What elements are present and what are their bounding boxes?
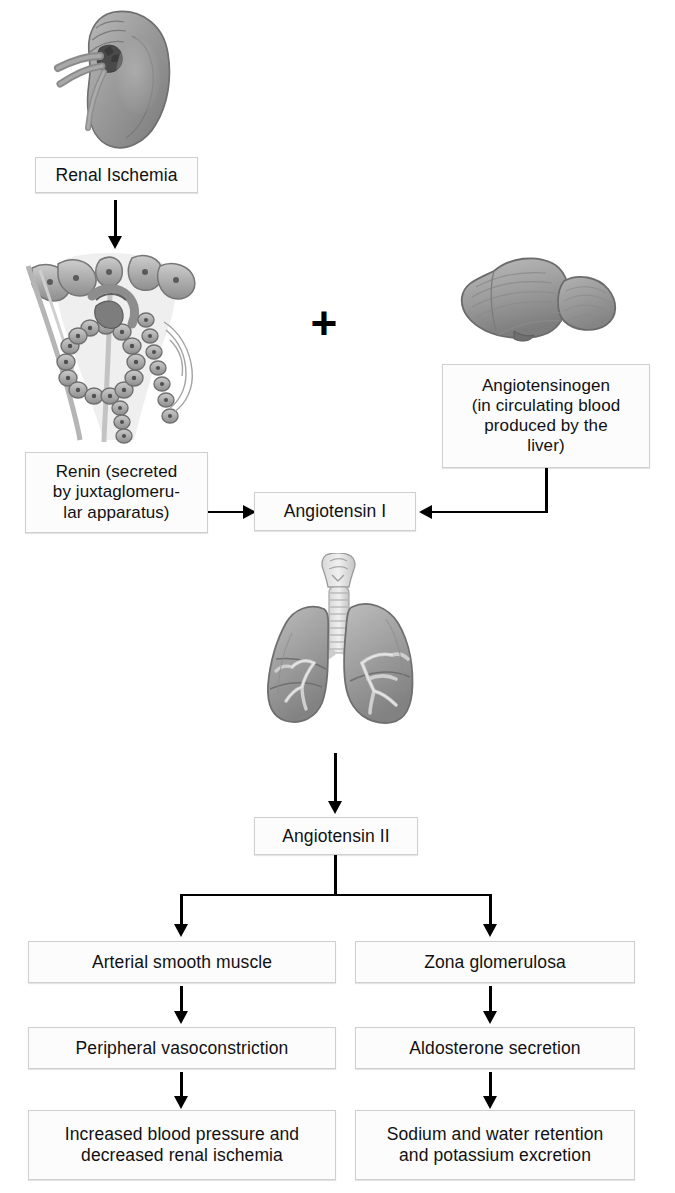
connector-branch-right-drop <box>489 894 492 926</box>
connector-angiotensinogen-vertical <box>545 468 548 513</box>
connector-renin-to-angiotensin-i <box>208 511 245 514</box>
arrowhead-aldosterone-to-sodium-water <box>483 1096 497 1109</box>
connector-angiotensin-ii-stem <box>334 855 337 896</box>
node-renin[interactable]: Renin (secreted by juxtaglomeru- lar app… <box>25 452 208 533</box>
connector-aldosterone-to-sodium-water <box>489 1072 492 1098</box>
connector-angiotensin-ii-branch-bar <box>180 894 491 897</box>
node-arterial-smooth-muscle[interactable]: Arterial smooth muscle <box>28 941 336 983</box>
node-peripheral-vasoconstriction[interactable]: Peripheral vasoconstriction <box>28 1027 336 1069</box>
liver-icon <box>452 255 634 347</box>
node-increased-blood-pressure[interactable]: Increased blood pressure and decreased r… <box>28 1110 336 1180</box>
connector-vasoconstriction-to-increased-bp <box>180 1072 183 1098</box>
kidney-icon <box>52 6 192 156</box>
lungs-icon <box>252 553 424 753</box>
node-angiotensinogen[interactable]: Angiotensinogen (in circulating blood pr… <box>442 364 650 468</box>
diagram-canvas: Renal Ischemia <box>0 0 675 1193</box>
connector-zona-to-aldosterone <box>489 986 492 1013</box>
node-angiotensin-i[interactable]: Angiotensin I <box>254 492 416 531</box>
arrowhead-vasoconstriction-to-increased-bp <box>174 1096 188 1109</box>
arrowhead-angiotensinogen-to-angiotensin-i <box>419 505 432 519</box>
connector-arterial-to-vasoconstriction <box>180 986 183 1013</box>
arrowhead-lungs-to-angiotensin-ii <box>328 801 342 814</box>
node-angiotensin-ii[interactable]: Angiotensin II <box>254 817 418 855</box>
node-aldosterone-secretion[interactable]: Aldosterone secretion <box>355 1027 635 1069</box>
arrowhead-renal-ischemia-to-jga <box>108 236 122 249</box>
node-sodium-water-retention[interactable]: Sodium and water retention and potassium… <box>355 1110 635 1180</box>
arrowhead-arterial-to-vasoconstriction <box>174 1011 188 1024</box>
connector-lungs-to-angiotensin-ii <box>334 753 337 803</box>
node-renal-ischemia[interactable]: Renal Ischemia <box>35 157 198 193</box>
node-zona-glomerulosa[interactable]: Zona glomerulosa <box>355 941 635 983</box>
arrowhead-to-zona-glomerulosa <box>483 924 497 937</box>
juxtaglomerular-apparatus-icon <box>14 250 224 450</box>
connector-renal-ischemia-to-jga <box>114 200 117 238</box>
connector-angiotensinogen-horizontal <box>432 511 547 514</box>
arrowhead-zona-to-aldosterone <box>483 1011 497 1024</box>
arrowhead-to-arterial-smooth-muscle <box>174 924 188 937</box>
plus-symbol: + <box>307 300 341 346</box>
connector-branch-left-drop <box>180 894 183 926</box>
